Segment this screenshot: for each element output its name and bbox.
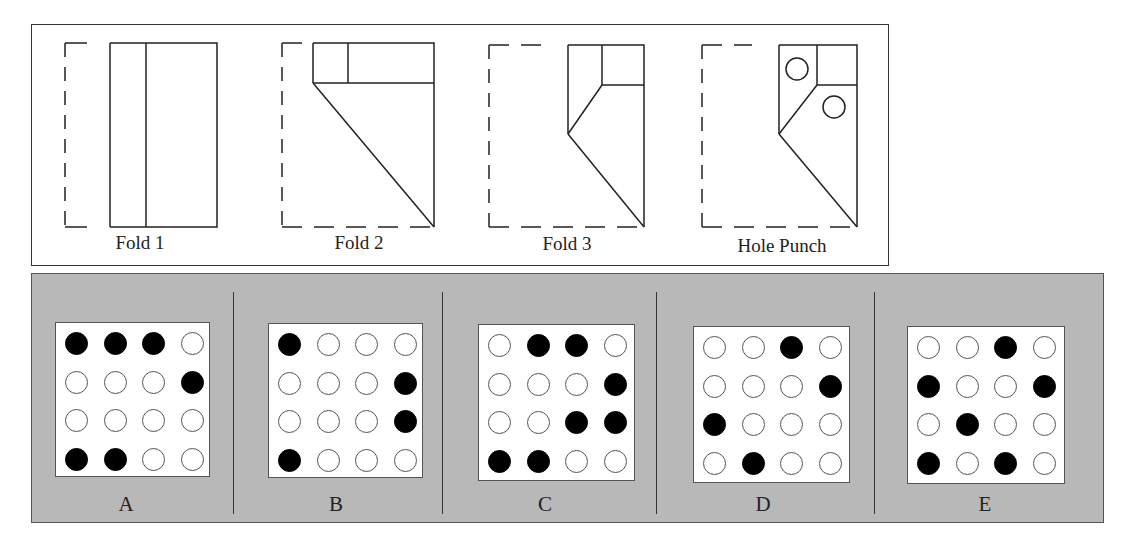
empty-dot [780, 413, 803, 436]
option-divider [874, 292, 875, 514]
filled-dot [278, 449, 301, 472]
empty-dot [604, 334, 627, 357]
punch-hole-2 [823, 96, 845, 118]
empty-dot [394, 449, 417, 472]
option-divider [233, 292, 234, 514]
empty-dot [565, 450, 588, 473]
empty-dot [917, 413, 940, 436]
empty-dot [278, 410, 301, 433]
filled-dot [527, 450, 550, 473]
empty-dot [703, 336, 726, 359]
empty-dot [65, 371, 88, 394]
filled-dot [604, 411, 627, 434]
filled-dot [994, 336, 1017, 359]
dot-grid [268, 323, 423, 478]
filled-dot [278, 333, 301, 356]
empty-dot [65, 409, 88, 432]
empty-dot [355, 333, 378, 356]
empty-dot [181, 409, 204, 432]
empty-dot [819, 452, 842, 475]
option-label: D [743, 492, 783, 517]
punch-hole-1 [786, 58, 808, 80]
fold-1-label: Fold 1 [50, 232, 230, 254]
filled-dot [142, 332, 165, 355]
empty-dot [181, 332, 204, 355]
empty-dot [104, 409, 127, 432]
empty-dot [917, 336, 940, 359]
dot-grid [907, 326, 1065, 484]
dot-grid [478, 324, 635, 481]
filled-dot [604, 373, 627, 396]
empty-dot [527, 411, 550, 434]
option-divider [656, 292, 657, 514]
empty-dot [1033, 336, 1056, 359]
empty-dot [1033, 452, 1056, 475]
filled-dot [994, 452, 1017, 475]
empty-dot [317, 449, 340, 472]
filled-dot [394, 410, 417, 433]
empty-dot [703, 452, 726, 475]
folding-steps-panel: Fold 1 Fold 2 Fold 3 Hole Punch [31, 24, 889, 266]
empty-dot [355, 372, 378, 395]
folding-diagrams [32, 25, 890, 267]
empty-dot [355, 449, 378, 472]
filled-dot [104, 332, 127, 355]
fold-2-diagram [282, 43, 434, 227]
empty-dot [819, 336, 842, 359]
answer-options-panel: ABCDE [31, 273, 1104, 523]
empty-dot [142, 448, 165, 471]
empty-dot [1033, 413, 1056, 436]
option-label: C [525, 492, 565, 517]
filled-dot [488, 450, 511, 473]
empty-dot [742, 413, 765, 436]
empty-dot [394, 333, 417, 356]
empty-dot [488, 334, 511, 357]
fold-3-label: Fold 3 [477, 233, 657, 255]
filled-dot [742, 452, 765, 475]
empty-dot [994, 413, 1017, 436]
empty-dot [742, 375, 765, 398]
filled-dot [703, 413, 726, 436]
empty-dot [956, 375, 979, 398]
empty-dot [488, 373, 511, 396]
empty-dot [142, 409, 165, 432]
option-label: E [965, 492, 1005, 517]
empty-dot [317, 333, 340, 356]
dot-grid [55, 322, 210, 477]
fold-2-label: Fold 2 [269, 232, 449, 254]
hole-punch-label: Hole Punch [692, 235, 872, 257]
filled-dot [565, 334, 588, 357]
filled-dot [394, 372, 417, 395]
option-divider [442, 292, 443, 514]
empty-dot [355, 410, 378, 433]
filled-dot [780, 336, 803, 359]
filled-dot [104, 448, 127, 471]
filled-dot [181, 371, 204, 394]
empty-dot [181, 448, 204, 471]
empty-dot [956, 452, 979, 475]
empty-dot [278, 372, 301, 395]
empty-dot [527, 373, 550, 396]
empty-dot [104, 371, 127, 394]
empty-dot [819, 413, 842, 436]
empty-dot [703, 375, 726, 398]
filled-dot [917, 452, 940, 475]
empty-dot [488, 411, 511, 434]
empty-dot [317, 410, 340, 433]
empty-dot [994, 375, 1017, 398]
filled-dot [65, 332, 88, 355]
filled-dot [65, 448, 88, 471]
empty-dot [956, 336, 979, 359]
filled-dot [565, 411, 588, 434]
filled-dot [819, 375, 842, 398]
option-label: B [316, 492, 356, 517]
hole-punch-diagram [702, 45, 857, 227]
fold-1-diagram [65, 43, 217, 227]
empty-dot [780, 452, 803, 475]
filled-dot [956, 413, 979, 436]
empty-dot [604, 450, 627, 473]
option-label: A [106, 492, 146, 517]
empty-dot [142, 371, 165, 394]
empty-dot [565, 373, 588, 396]
empty-dot [780, 375, 803, 398]
